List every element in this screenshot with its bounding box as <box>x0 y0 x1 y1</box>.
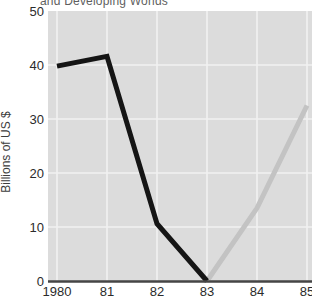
x-tick-label-84: 84 <box>250 284 264 299</box>
x-axis-tick-labels: 19808182838485 <box>43 284 312 299</box>
y-axis-title: Billions of US $ <box>0 111 13 193</box>
y-tick-label-30: 30 <box>30 112 44 127</box>
chart-container: 01020304050 19808182838485 Billions of U… <box>0 0 312 304</box>
y-axis-tick-labels: 01020304050 <box>30 4 44 289</box>
y-tick-label-20: 20 <box>30 166 44 181</box>
y-tick-label-40: 40 <box>30 58 44 73</box>
y-tick-label-10: 10 <box>30 220 44 235</box>
x-tick-label-82: 82 <box>150 284 164 299</box>
chart-title-fragment: and Developing Worlds <box>40 0 168 8</box>
x-tick-label-85: 85 <box>300 284 312 299</box>
line-chart: 01020304050 19808182838485 Billions of U… <box>0 0 312 304</box>
x-tick-label-1980: 1980 <box>43 284 72 299</box>
plot-area-background <box>48 11 312 281</box>
x-tick-label-81: 81 <box>100 284 114 299</box>
x-tick-label-83: 83 <box>200 284 214 299</box>
